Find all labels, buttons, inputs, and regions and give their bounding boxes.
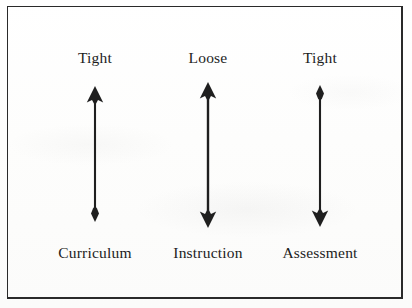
- arrow-curriculum: [87, 86, 103, 222]
- arrow-instruction: [200, 82, 216, 228]
- top-label-assessment: Tight: [250, 50, 390, 66]
- bottom-label-assessment: Assessment: [250, 245, 390, 261]
- figure-canvas: Tight Loose Tight Curriculum Instruction…: [0, 0, 412, 308]
- arrows-layer: [0, 0, 412, 308]
- arrow-assessment: [312, 85, 328, 227]
